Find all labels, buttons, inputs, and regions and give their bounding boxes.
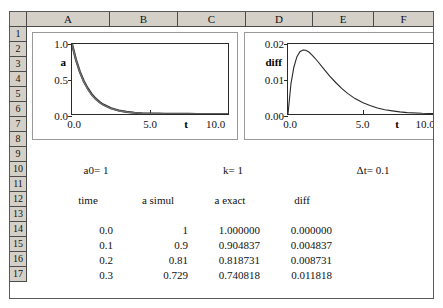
chart-decay-xaxis: 0.0 5.0 t 10.0 [72, 119, 228, 133]
row-header-11[interactable]: 11 [10, 177, 27, 192]
select-all-corner[interactable] [10, 12, 27, 27]
cell-a-simul-r14[interactable]: 1 [128, 223, 188, 238]
cell-time-r16[interactable]: 0.2 [63, 253, 113, 268]
cell-a-simul-r15[interactable]: 0.9 [128, 238, 188, 253]
chart-decay[interactable]: 1.0 a 0.5 0.0 0.0 5.0 t 10.0 [32, 32, 238, 140]
spreadsheet[interactable]: A B C D E F 1 2 3 4 5 6 7 8 9 10 11 12 1… [9, 11, 434, 299]
cell-a-simul-r16[interactable]: 0.81 [128, 253, 188, 268]
chart-diff-curve [288, 44, 433, 114]
chart-decay-xaxis-label: t [184, 119, 188, 130]
column-header-f[interactable]: F [374, 12, 433, 27]
cell-time-r17[interactable]: 0.3 [63, 268, 113, 283]
cell-diff-r16[interactable]: 0.008731 [268, 253, 332, 268]
chart-diff-xaxis: 0.0 5.0 t 10.0 [288, 119, 433, 133]
chart-diff-ytick-0: 0.00 [265, 111, 284, 122]
cell-diff-r17[interactable]: 0.011818 [268, 268, 332, 283]
row-header-17[interactable]: 17 [10, 267, 27, 282]
chart-diff-plot-area: 0.02 diff 0.01 0.00 0.0 5.0 t 10.0 [287, 43, 433, 115]
chart-diff-xaxis-label: t [395, 119, 399, 130]
column-header-e[interactable]: E [313, 12, 374, 27]
chart-diff-xtick-2: 10.0 [415, 119, 433, 130]
row-header-15[interactable]: 15 [10, 237, 27, 252]
row-header-8[interactable]: 8 [10, 132, 27, 147]
cell-dt-parameter[interactable]: Δt= 0.1 [338, 163, 408, 178]
grid-body[interactable]: 1.0 a 0.5 0.0 0.0 5.0 t 10.0 [28, 27, 433, 298]
column-header-d[interactable]: D [246, 12, 313, 27]
table-header-diff[interactable]: diff [272, 193, 332, 208]
row-header-13[interactable]: 13 [10, 207, 27, 222]
chart-diff-ytick-1: 0.01 [265, 75, 284, 86]
chart-diff-ytick-2: 0.02 [265, 39, 284, 50]
chart-decay-yaxis-label: a [61, 57, 67, 68]
cell-k-parameter[interactable]: k= 1 [203, 163, 263, 178]
chart-decay-xtick-0: 0.0 [67, 119, 81, 130]
column-header-c[interactable]: C [178, 12, 246, 27]
chart-diff-xtick-0: 0.0 [283, 119, 297, 130]
table-header-a-simul[interactable]: a simul [128, 193, 188, 208]
row-header-9[interactable]: 9 [10, 147, 27, 162]
row-header-10[interactable]: 10 [10, 162, 27, 177]
cell-diff-r14[interactable]: 0.000000 [268, 223, 332, 238]
cell-a-exact-r16[interactable]: 0.818731 [196, 253, 260, 268]
cell-a-simul-r17[interactable]: 0.729 [128, 268, 188, 283]
cell-a-exact-r14[interactable]: 1.000000 [196, 223, 260, 238]
row-header-6[interactable]: 6 [10, 102, 27, 117]
row-header-1[interactable]: 1 [10, 27, 27, 42]
row-header-16[interactable]: 16 [10, 252, 27, 267]
chart-diff-xtick-1: 5.0 [356, 119, 370, 130]
column-header-b[interactable]: B [110, 12, 178, 27]
chart-diff-yaxis-label: diff [266, 57, 283, 68]
row-header-2[interactable]: 2 [10, 42, 27, 57]
cell-a-exact-r15[interactable]: 0.904837 [196, 238, 260, 253]
row-header-14[interactable]: 14 [10, 222, 27, 237]
chart-decay-xtick-1: 5.0 [143, 119, 157, 130]
cell-time-r14[interactable]: 0.0 [63, 223, 113, 238]
row-header-5[interactable]: 5 [10, 87, 27, 102]
row-header-7[interactable]: 7 [10, 117, 27, 132]
chart-decay-curves [72, 44, 228, 114]
row-header-3[interactable]: 3 [10, 57, 27, 72]
chart-decay-ytick-1: 0.5 [54, 75, 68, 86]
chart-decay-xtick-2: 10.0 [206, 119, 225, 130]
column-header-a[interactable]: A [27, 12, 110, 27]
table-header-a-exact[interactable]: a exact [200, 193, 260, 208]
cell-diff-r15[interactable]: 0.004837 [268, 238, 332, 253]
cell-a0-parameter[interactable]: a0= 1 [66, 163, 126, 178]
cell-time-r15[interactable]: 0.1 [63, 238, 113, 253]
table-header-time[interactable]: time [63, 193, 113, 208]
row-header-column: 1 2 3 4 5 6 7 8 9 10 11 12 13 14 15 16 1… [10, 27, 27, 282]
chart-decay-plot-area: 1.0 a 0.5 0.0 0.0 5.0 t 10.0 [71, 43, 229, 115]
row-header-4[interactable]: 4 [10, 72, 27, 87]
chart-decay-ytick-2: 1.0 [54, 39, 68, 50]
chart-diff[interactable]: 0.02 diff 0.01 0.00 0.0 5.0 t 10.0 [244, 32, 433, 140]
column-header-row: A B C D E F [10, 12, 433, 27]
row-header-12[interactable]: 12 [10, 192, 27, 207]
chart-decay-ytick-0: 0.0 [54, 111, 68, 122]
cell-a-exact-r17[interactable]: 0.740818 [196, 268, 260, 283]
